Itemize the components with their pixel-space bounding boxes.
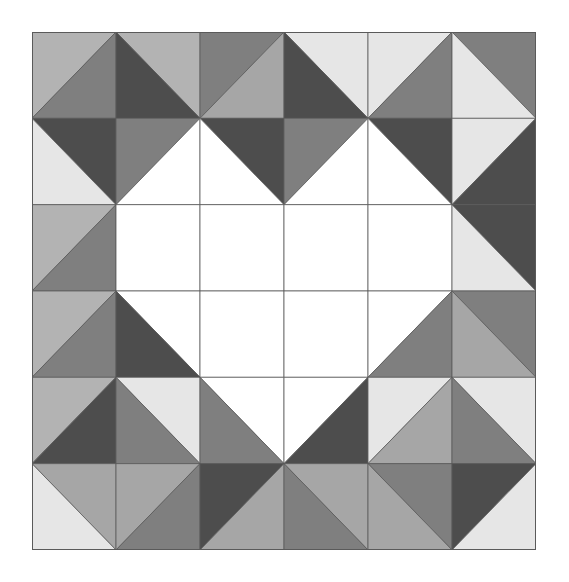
quilt-cell (452, 464, 536, 550)
quilt-cell (452, 118, 536, 204)
square-plain (200, 291, 284, 377)
quilt-cell (368, 464, 452, 550)
quilt-cell (32, 464, 116, 550)
quilt-cell (368, 205, 452, 291)
quilt-cell (200, 205, 284, 291)
quilt-cell (32, 205, 116, 291)
square-plain (368, 205, 452, 291)
quilt-cell (32, 118, 116, 204)
quilt-cell (200, 32, 284, 118)
quilt-cell (284, 291, 368, 377)
square-plain (284, 205, 368, 291)
quilt-cell (32, 32, 116, 118)
quilt-cell (368, 32, 452, 118)
quilt-cell (452, 32, 536, 118)
quilt-cell (116, 118, 200, 204)
quilt-cell (116, 377, 200, 463)
quilt-cell (368, 118, 452, 204)
quilt-cell (284, 377, 368, 463)
quilt-cell (200, 464, 284, 550)
quilt-cell (116, 205, 200, 291)
quilt-cell (116, 291, 200, 377)
quilt-heart-pattern: Heart quilt block pattern (32, 32, 536, 550)
quilt-cell (368, 291, 452, 377)
quilt-grid (32, 32, 536, 550)
quilt-cell (452, 377, 536, 463)
quilt-cell (116, 464, 200, 550)
quilt-cell (284, 118, 368, 204)
quilt-cell (200, 291, 284, 377)
quilt-cell (200, 118, 284, 204)
quilt-cell (284, 464, 368, 550)
quilt-cell (368, 377, 452, 463)
quilt-cell (452, 205, 536, 291)
quilt-cell (200, 377, 284, 463)
quilt-cell (32, 377, 116, 463)
quilt-cell (116, 32, 200, 118)
square-plain (116, 205, 200, 291)
quilt-cell (284, 205, 368, 291)
quilt-cell (32, 291, 116, 377)
quilt-cell (284, 32, 368, 118)
square-plain (284, 291, 368, 377)
quilt-cell (452, 291, 536, 377)
square-plain (200, 205, 284, 291)
